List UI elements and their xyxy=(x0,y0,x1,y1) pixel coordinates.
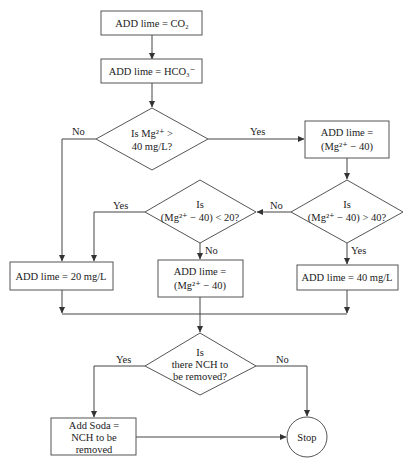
node-stop-text: Stop xyxy=(297,432,316,443)
edge-mg40-no xyxy=(62,139,96,261)
label-nch-yes: Yes xyxy=(116,354,131,365)
node-add-lime-mg-mid-line1: ADD lime = xyxy=(174,266,227,277)
node-add-soda-line3: removed xyxy=(76,444,113,455)
label-gt40-no: No xyxy=(270,200,283,211)
node-add-lime-co2: ADD lime = CO₂ xyxy=(101,11,202,35)
label-nch-no: No xyxy=(276,354,289,365)
edge-labels: No Yes No Yes Yes No Yes No xyxy=(72,126,366,365)
edge-lt20-yes xyxy=(94,212,145,261)
node-add-lime-hco3-text: ADD lime = HCO₃⁻ xyxy=(109,66,196,77)
node-decision-mg-gt-40: Is Mg²⁺ > 40 mg/L? xyxy=(96,108,208,170)
node-add-lime-mg-minus-40-mid: ADD lime = (Mg²⁺ − 40) xyxy=(158,260,243,297)
node-add-soda: Add Soda = NCH to be removed xyxy=(51,418,136,455)
edge-nch-yes xyxy=(94,366,145,417)
node-decision-lt-20: Is (Mg²⁺ − 40) < 20? xyxy=(145,180,256,243)
node-add-lime-20-text: ADD lime = 20 mg/L xyxy=(15,271,106,282)
node-decision-nch: Is there NCH to be removed? xyxy=(145,333,256,395)
node-add-lime-mg-top-line1: ADD lime = xyxy=(321,127,374,138)
node-add-lime-20: ADD lime = 20 mg/L xyxy=(10,262,113,290)
node-stop: Stop xyxy=(287,417,327,457)
decision-gt-40-line2: (Mg²⁺ − 40) > 40? xyxy=(308,212,387,224)
decision-mg-gt-40-line1: Is Mg²⁺ > xyxy=(131,128,173,139)
label-mg40-yes: Yes xyxy=(250,126,265,137)
node-add-lime-co2-text: ADD lime = CO₂ xyxy=(115,18,189,29)
node-add-lime-hco3: ADD lime = HCO₃⁻ xyxy=(101,59,202,83)
node-add-lime-mg-mid-line2: (Mg²⁺ − 40) xyxy=(174,280,226,292)
decision-mg-gt-40-line2: 40 mg/L? xyxy=(132,141,173,152)
label-mg40-no: No xyxy=(72,126,85,137)
edge-nch-no xyxy=(256,366,307,416)
node-add-lime-40-text: ADD lime = 40 mg/L xyxy=(301,272,392,283)
node-add-lime-mg-top-line2: (Mg²⁺ − 40) xyxy=(321,141,373,153)
decision-nch-line2: there NCH to xyxy=(172,359,229,370)
decision-nch-line3: be removed? xyxy=(173,371,227,382)
flowchart: No Yes No Yes Yes No Yes No ADD lime = C… xyxy=(0,0,411,466)
label-lt20-no: No xyxy=(205,245,218,256)
node-add-lime-mg-minus-40-top: ADD lime = (Mg²⁺ − 40) xyxy=(305,121,389,158)
node-add-lime-40: ADD lime = 40 mg/L xyxy=(297,265,398,290)
decision-gt-40-line1: Is xyxy=(343,199,351,210)
decision-lt-20-line1: Is xyxy=(196,199,204,210)
node-decision-gt-40: Is (Mg²⁺ − 40) > 40? xyxy=(291,180,403,243)
node-add-soda-line2: NCH to be xyxy=(71,432,117,443)
label-gt40-yes: Yes xyxy=(351,245,366,256)
decision-nch-line1: Is xyxy=(196,347,204,358)
label-lt20-yes: Yes xyxy=(113,200,128,211)
node-add-soda-line1: Add Soda = xyxy=(69,420,119,431)
decision-lt-20-line2: (Mg²⁺ − 40) < 20? xyxy=(161,212,240,224)
